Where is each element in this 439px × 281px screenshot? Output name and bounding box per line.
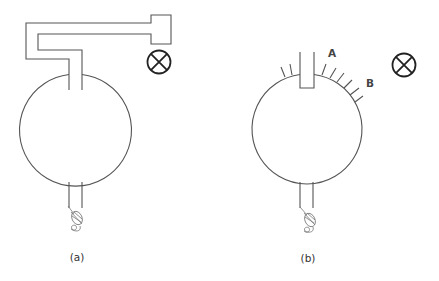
panel-a <box>20 15 172 231</box>
diagram-svg <box>0 0 439 281</box>
globe-b <box>252 75 362 185</box>
side-tube-left <box>281 64 292 77</box>
caption-a: (a) <box>70 251 85 263</box>
bottom-neck-b <box>300 182 313 208</box>
lamp-cross-icon <box>393 54 416 77</box>
diagram-canvas: A B (a) (b) <box>0 0 439 281</box>
point-label-b: B <box>366 77 374 89</box>
lamp-cross-icon <box>148 51 171 74</box>
filament-coil-icon <box>68 206 84 231</box>
center-stub-b <box>300 52 314 88</box>
panel-b <box>252 52 416 232</box>
filament-coil-icon <box>300 207 317 232</box>
caption-b: (b) <box>301 252 316 264</box>
side-tubes-right <box>322 64 363 102</box>
point-label-a: A <box>328 47 336 59</box>
globe-a <box>20 75 132 187</box>
